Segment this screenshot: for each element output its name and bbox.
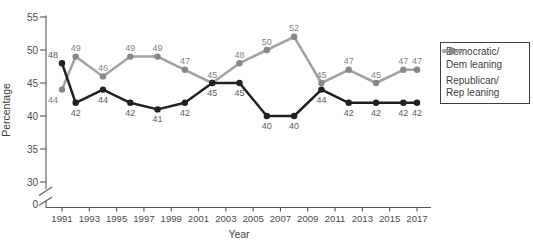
point-republican-2004: [236, 60, 242, 66]
point-republican-1992: [72, 53, 78, 59]
x-tick-label: 2015: [379, 213, 400, 224]
point-label-republican-2016: 47: [398, 56, 408, 66]
point-democratic-2006: [264, 113, 270, 119]
point-label-democratic-2010: 44: [316, 95, 326, 105]
point-republican-2017: [414, 67, 420, 73]
point-democratic-1996: [127, 100, 133, 106]
legend-label-republican: Republican/ Rep leaning: [446, 75, 499, 101]
y-tick-label: 45: [27, 78, 39, 89]
point-democratic-2016: [400, 100, 406, 106]
point-democratic-1992: [72, 100, 78, 106]
point-label-republican-1996: 49: [125, 43, 135, 53]
point-label-republican-2006: 50: [262, 37, 272, 47]
point-democratic-2000: [182, 100, 188, 106]
x-tick-label: 1991: [51, 213, 72, 224]
y-tick-label: 55: [27, 12, 39, 23]
point-label-republican-1991: 44: [48, 95, 58, 105]
point-republican-2012: [346, 67, 352, 73]
point-label-democratic-2017: 42: [412, 108, 422, 118]
point-label-republican-2002: 45: [207, 70, 217, 80]
y-tick-label: 35: [27, 144, 39, 155]
x-tick-label: 1995: [106, 213, 127, 224]
point-label-republican-2000: 47: [180, 56, 190, 66]
point-label-republican-1992: 49: [71, 43, 81, 53]
point-republican-2010: [318, 80, 324, 86]
point-label-democratic-2014: 42: [371, 108, 381, 118]
point-democratic-2010: [318, 86, 324, 92]
line-chart: 5550454035300199119931995199719992001200…: [0, 0, 533, 247]
point-label-democratic-2016: 42: [398, 108, 408, 118]
x-tick-label: 2003: [215, 213, 236, 224]
point-democratic-2008: [291, 113, 297, 119]
point-label-democratic-1994: 44: [98, 95, 108, 105]
point-republican-2006: [264, 47, 270, 53]
x-tick-label: 1997: [133, 213, 154, 224]
chart-figure: 5550454035300199119931995199719992001200…: [0, 0, 533, 247]
point-label-democratic-1992: 42: [71, 108, 81, 118]
point-label-democratic-1998: 41: [153, 114, 163, 124]
y-tick-label: 40: [27, 111, 39, 122]
point-label-democratic-2000: 42: [180, 108, 190, 118]
point-label-republican-2008: 52: [289, 23, 299, 33]
point-label-democratic-2012: 42: [344, 108, 354, 118]
y-tick-label: 50: [27, 45, 39, 56]
x-tick-label: 2011: [325, 213, 346, 224]
point-label-republican-2014: 45: [371, 70, 381, 80]
x-tick-label: 2017: [406, 213, 427, 224]
republican-line-marker-icon: [441, 46, 463, 56]
point-label-democratic-1991: 48: [48, 50, 58, 60]
point-label-republican-1994: 46: [98, 63, 108, 73]
x-tick-label: 2005: [242, 213, 263, 224]
point-republican-1996: [127, 53, 133, 59]
point-label-democratic-2002: 45: [207, 88, 217, 98]
point-label-republican-2004: 48: [234, 50, 244, 60]
point-label-republican-1998: 49: [153, 43, 163, 53]
x-tick-label: 2007: [270, 213, 291, 224]
point-label-democratic-2008: 40: [289, 121, 299, 131]
x-tick-label: 2001: [188, 213, 209, 224]
point-label-republican-2012: 47: [344, 56, 354, 66]
y-axis-title: Percentage: [0, 78, 14, 142]
point-republican-1994: [100, 73, 106, 79]
x-tick-label: 2009: [297, 213, 318, 224]
point-republican-2014: [373, 80, 379, 86]
point-democratic-2014: [373, 100, 379, 106]
point-label-democratic-2006: 40: [262, 121, 272, 131]
x-axis-title: Year: [46, 228, 432, 240]
y-tick-label: 0: [32, 199, 38, 210]
point-democratic-1994: [100, 86, 106, 92]
legend-item-republican: Republican/ Rep leaning: [446, 75, 529, 101]
point-label-democratic-2004: 45: [234, 88, 244, 98]
point-democratic-1991: [59, 60, 65, 66]
point-republican-2000: [182, 67, 188, 73]
point-label-democratic-1996: 42: [125, 108, 135, 118]
point-label-republican-2010: 45: [316, 70, 326, 80]
point-democratic-2012: [346, 100, 352, 106]
y-tick-label: 30: [27, 177, 39, 188]
x-tick-label: 1999: [161, 213, 182, 224]
point-republican-2008: [291, 34, 297, 40]
point-republican-2016: [400, 67, 406, 73]
point-democratic-1998: [154, 106, 160, 112]
point-democratic-2017: [414, 100, 420, 106]
point-democratic-2004: [236, 80, 242, 86]
x-tick-label: 2013: [352, 213, 373, 224]
legend: Democratic/ Dem leaning Republican/ Rep …: [440, 42, 530, 104]
point-republican-1998: [154, 53, 160, 59]
point-democratic-2002: [209, 80, 215, 86]
point-label-republican-2017: 47: [412, 56, 422, 66]
point-republican-1991: [59, 86, 65, 92]
x-tick-label: 1993: [79, 213, 100, 224]
